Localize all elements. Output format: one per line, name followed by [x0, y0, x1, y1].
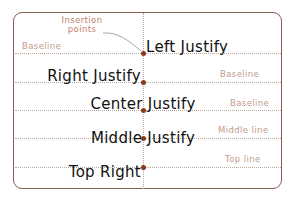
sample-text-right-justify: Right Justify	[47, 69, 141, 84]
insertion-point-dot-right	[141, 80, 146, 85]
insertion-point-dot-top-right	[141, 165, 146, 170]
sample-text-top-right: Top Right	[69, 165, 141, 180]
guide-label-top-line: Top line	[225, 155, 261, 164]
guide-line-top-right	[15, 167, 281, 168]
guide-label-middle-line: Middle line	[218, 126, 269, 135]
guide-label-baseline-3: Baseline	[230, 99, 269, 108]
annotation-line-2: points	[52, 25, 112, 34]
sample-text-left-justify: Left Justify	[146, 40, 228, 55]
guide-label-baseline-2: Baseline	[220, 70, 259, 79]
guide-label-baseline-1: Baseline	[22, 42, 61, 51]
insertion-point-dot-left	[141, 51, 146, 56]
insertion-points-annotation: Insertion points	[52, 16, 112, 35]
justification-diagram: Insertion points Baseline Left Justify R…	[0, 0, 299, 201]
insertion-point-dot-middle	[141, 136, 146, 141]
insertion-point-dot-center	[141, 108, 146, 113]
